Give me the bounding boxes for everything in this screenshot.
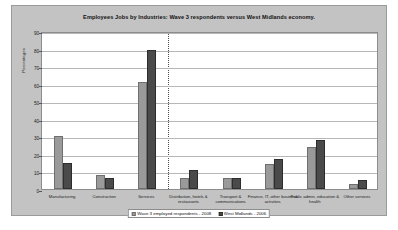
bar[interactable] [265, 164, 274, 189]
bar[interactable] [189, 170, 198, 189]
legend-swatch-icon [132, 212, 136, 216]
chart-legend: Wave 3 employed respondents - 2008 West … [128, 209, 270, 218]
plot-area: 0102030405060708090 [41, 32, 378, 190]
bar-group [42, 33, 84, 189]
bar[interactable] [54, 136, 63, 189]
bar-group [295, 33, 337, 189]
bar-group [253, 33, 295, 189]
bar-group [211, 33, 253, 189]
bar[interactable] [138, 82, 147, 189]
bar[interactable] [105, 178, 114, 189]
bar[interactable] [349, 184, 358, 189]
bar[interactable] [307, 147, 316, 189]
bar[interactable] [274, 159, 283, 189]
bar[interactable] [147, 50, 156, 189]
bar[interactable] [63, 163, 72, 189]
legend-item-1: West Midlands - 2006 [218, 211, 266, 216]
chart-container: Employees Jobs by Industries: Wave 3 res… [11, 5, 387, 216]
x-axis-label: Other services [332, 194, 382, 199]
bar[interactable] [180, 178, 189, 189]
bar[interactable] [96, 175, 105, 189]
bar-group [337, 33, 379, 189]
chart-title: Employees Jobs by Industries: Wave 3 res… [12, 14, 386, 20]
bar-group [84, 33, 126, 189]
y-axis-tickmark [39, 191, 42, 192]
legend-swatch-icon [218, 212, 222, 216]
legend-label-0: Wave 3 employed respondents - 2008 [137, 211, 211, 216]
y-axis-label: Percentages [21, 31, 26, 91]
bar-group [126, 33, 168, 189]
bar[interactable] [232, 178, 241, 189]
bar[interactable] [316, 140, 325, 189]
corner-mark: :: [382, 210, 384, 214]
legend-item-0: Wave 3 employed respondents - 2008 [132, 211, 212, 216]
bar-group [168, 33, 210, 189]
legend-label-1: West Midlands - 2006 [224, 211, 266, 216]
bar[interactable] [358, 180, 367, 189]
bar[interactable] [223, 178, 232, 189]
